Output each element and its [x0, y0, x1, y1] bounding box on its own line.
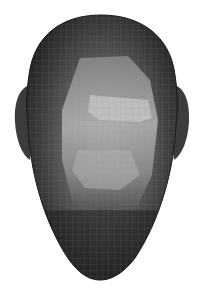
mesh-wireframe [0, 0, 203, 291]
head-mesh-render [0, 0, 203, 291]
render-canvas [0, 0, 203, 291]
